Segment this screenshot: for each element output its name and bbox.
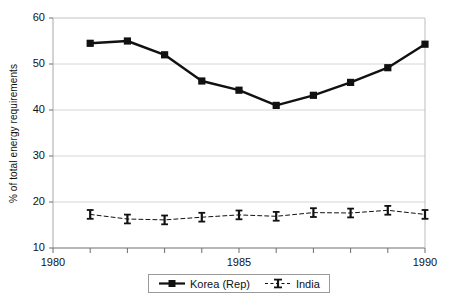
y-tick-label: 20 xyxy=(15,195,45,207)
legend-square xyxy=(169,280,176,287)
data-point xyxy=(87,40,94,47)
data-point xyxy=(384,64,391,71)
data-point xyxy=(310,92,317,99)
y-axis-ticks xyxy=(49,18,53,248)
y-tick-label: 50 xyxy=(15,57,45,69)
data-point xyxy=(273,102,280,109)
marker-square xyxy=(310,92,317,99)
marker-square xyxy=(87,40,94,47)
series-line-2 xyxy=(90,210,425,220)
gridlines xyxy=(53,18,425,202)
legend-label: India xyxy=(296,278,320,290)
data-point xyxy=(421,41,428,48)
chart-container: % of total energy requirements 102030405… xyxy=(0,0,450,304)
legend-marker-square-icon xyxy=(158,278,186,289)
y-tick-label: 10 xyxy=(15,241,45,253)
data-point xyxy=(124,37,131,44)
x-axis-ticks xyxy=(53,248,425,253)
data-point xyxy=(347,79,354,86)
marker-square xyxy=(384,64,391,71)
legend-label: Korea (Rep) xyxy=(190,278,250,290)
series-line-1 xyxy=(90,41,425,105)
data-point xyxy=(235,87,242,94)
legend-marker-ibeam-icon xyxy=(264,278,292,289)
y-tick-label: 30 xyxy=(15,149,45,161)
x-tick-label: 1990 xyxy=(402,256,448,268)
x-tick-label: 1980 xyxy=(30,256,76,268)
legend-item: Korea (Rep) xyxy=(158,278,250,290)
data-point xyxy=(422,210,429,219)
data-series-layer xyxy=(87,37,429,224)
marker-square xyxy=(235,87,242,94)
data-point xyxy=(161,51,168,58)
y-tick-label: 40 xyxy=(15,103,45,115)
data-point xyxy=(198,77,205,84)
marker-square xyxy=(161,51,168,58)
marker-square xyxy=(421,41,428,48)
marker-square xyxy=(198,77,205,84)
marker-square xyxy=(347,79,354,86)
marker-square xyxy=(124,37,131,44)
y-tick-label: 60 xyxy=(15,11,45,23)
legend-item: India xyxy=(264,278,320,290)
marker-square xyxy=(273,102,280,109)
chart-legend: Korea (Rep)India xyxy=(148,274,330,293)
x-tick-label: 1985 xyxy=(216,256,262,268)
